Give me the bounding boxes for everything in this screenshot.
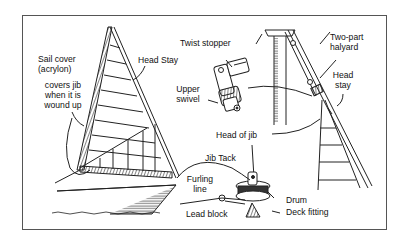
label-drum: Drum	[286, 195, 307, 205]
label-line: covers jib	[38, 80, 88, 90]
label-line: (acrylon)	[38, 64, 76, 74]
label-furling-line: Furling line	[183, 174, 217, 194]
label-jib-tack: Jib Tack	[205, 153, 236, 163]
masthead-drawing	[248, 30, 372, 190]
label-head-stay-left: Head Stay	[138, 55, 178, 65]
label-head-of-jib: Head of jib	[216, 130, 257, 140]
label-line: when it is	[38, 90, 88, 100]
label-head-stay-right: Head stay	[328, 70, 358, 90]
label-line: Two-part	[330, 32, 363, 42]
label-line: Furling	[183, 174, 217, 184]
label-sail-cover-cont: covers jib when it is wound up	[38, 80, 88, 110]
label-twist-stopper: Twist stopper	[180, 38, 231, 48]
label-line: Head	[328, 70, 358, 80]
label-upper-swivel: Upper swivel	[170, 84, 206, 104]
label-two-part-halyard: Two-part halyard	[330, 32, 363, 52]
label-sail-cover: Sail cover (acrylon)	[38, 54, 76, 74]
label-line: swivel	[170, 94, 206, 104]
label-line: Sail cover	[38, 54, 76, 64]
label-line: halyard	[330, 42, 363, 52]
label-deck-fitting: Deck fitting	[286, 207, 329, 217]
label-line: line	[183, 184, 217, 194]
label-line: wound up	[38, 100, 88, 110]
label-lead-block: Lead block	[186, 209, 228, 219]
label-line: stay	[328, 80, 358, 90]
label-line: Upper	[170, 84, 206, 94]
